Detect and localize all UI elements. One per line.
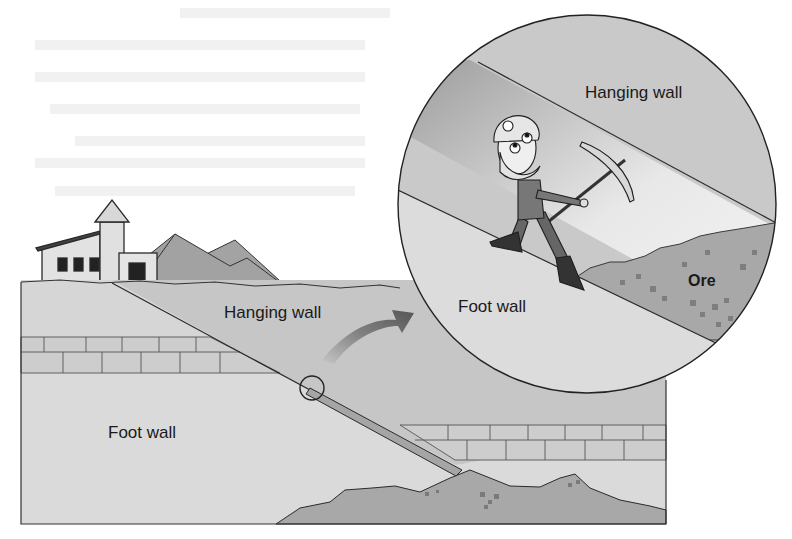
background-text-ghost bbox=[35, 8, 390, 196]
hanging-wall-label-inset: Hanging wall bbox=[585, 83, 682, 102]
mine-building bbox=[36, 200, 157, 282]
ore-label-inset: Ore bbox=[688, 272, 716, 289]
foot-wall-label-inset: Foot wall bbox=[458, 297, 526, 316]
vein-deposit-diagram: Hanging wall Foot wall bbox=[0, 0, 792, 539]
foot-wall-label-main: Foot wall bbox=[108, 423, 176, 442]
hanging-wall-label-main: Hanging wall bbox=[224, 303, 321, 322]
